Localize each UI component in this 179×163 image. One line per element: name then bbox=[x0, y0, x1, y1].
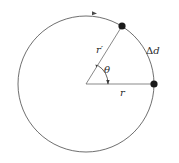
radius-r-prime-line bbox=[86, 26, 122, 84]
particle-final-position bbox=[118, 22, 125, 29]
direction-arrow-icon bbox=[92, 11, 97, 15]
label-delta-d: Δd bbox=[146, 46, 160, 56]
circular-motion-diagram: r′ θ Δd r bbox=[0, 0, 179, 163]
diagram-canvas bbox=[0, 0, 179, 163]
label-r-prime: r′ bbox=[96, 45, 103, 55]
particle-initial-position bbox=[150, 80, 157, 87]
label-theta: θ bbox=[104, 65, 110, 75]
delta-variable: d bbox=[153, 45, 159, 56]
label-r: r bbox=[120, 88, 125, 98]
